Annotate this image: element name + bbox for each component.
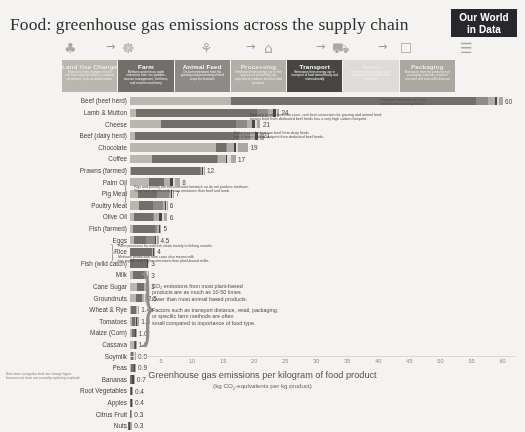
annotation-fish-wild: Farm pressures for wild fish relate main… [118, 244, 213, 248]
bar-segment-animal-feed [236, 120, 247, 128]
bar-row[interactable]: Groundnuts2.5 [0, 293, 525, 305]
supply-chain-segment-animal-feed[interactable]: Animal FeedOn-farm emissions from the gr… [175, 60, 231, 92]
bar-category-label: Cane Sugar [93, 282, 127, 291]
bar-row[interactable]: Cane Sugar3 [0, 282, 525, 294]
x-tick: 30 [313, 358, 319, 364]
bar-segment-animal-feed [153, 201, 163, 209]
bar-segment-farm [231, 97, 476, 105]
annotation-dairy-herd: Dairy co-products mean beef from dairy h… [234, 131, 324, 140]
bar-segment-farm [133, 225, 155, 233]
supply-chain-pictograms: ♣→☸⚘→⌂→⛟→☐☰ [60, 38, 480, 60]
bar-segment-packaging [499, 97, 503, 105]
bar-segment-farm [139, 201, 153, 209]
bar-segment-farm [134, 213, 153, 221]
owid-logo[interactable]: Our World in Data [451, 9, 517, 37]
bar-segment-farm [131, 167, 199, 175]
x-axis-ticks: 51015202530354045505560 [0, 358, 525, 370]
annotation-pig-poultry: Pigs and poultry are non-ruminant livest… [134, 185, 249, 194]
bar-category-label: Chocolate [98, 143, 127, 152]
bar-row[interactable]: Palm Oil8 [0, 177, 525, 189]
supply-chain-legend-band: Land Use ChangeEmissions from changes in… [62, 60, 456, 92]
bar-segment-farm [135, 132, 239, 140]
segment-description: Emissions from changes in land use from … [62, 70, 117, 82]
segment-label: Packaging [400, 63, 455, 70]
bar-category-label: Cheese [105, 120, 127, 129]
bar-row[interactable]: Cassava1.0 [0, 340, 525, 352]
bar-segment-animal-feed [476, 97, 488, 105]
supply-chain-segment-packaging[interactable]: PackagingEmissions from the production o… [400, 60, 456, 92]
bar-row[interactable]: Milk3 [0, 270, 525, 282]
bar-row[interactable]: Coffee17 [0, 154, 525, 166]
bar-row[interactable]: Prawns (farmed)12 [0, 166, 525, 178]
segment-label: Animal Feed [175, 63, 230, 70]
bar-segment-land-use-change [130, 143, 216, 151]
bar-row[interactable]: Fish (farmed)5 [0, 224, 525, 236]
bar-value-label: 5 [164, 224, 168, 233]
animal-feed-icon: ⚘ [200, 38, 213, 58]
bar-segment-land-use-change [130, 97, 231, 105]
segment-label: Processing [231, 63, 286, 70]
bar-segment-packaging [231, 155, 236, 163]
arrow-1-icon: → [106, 40, 115, 53]
x-tick: 35 [344, 358, 350, 364]
bar-value-label: 0.3 [134, 421, 143, 430]
supply-chain-segment-farm[interactable]: FarmMethane and nitrous oxide emissions … [118, 60, 174, 92]
bar-category-label: Tomatoes [99, 317, 127, 326]
bar-value-label: 19 [250, 143, 257, 152]
bar-row[interactable]: Nuts0.3 [0, 421, 525, 432]
bar-segment-processing [488, 97, 495, 105]
bar-segment-packaging [160, 225, 161, 233]
x-tick: 60 [499, 358, 505, 364]
brace-pig-poultry: } [123, 181, 128, 203]
bar-row[interactable]: Chocolate19 [0, 142, 525, 154]
bar-category-label: Coffee [108, 154, 127, 163]
supply-chain-segment-processing[interactable]: ProcessingEmissions from energy use in t… [231, 60, 287, 92]
x-tick: 50 [437, 358, 443, 364]
x-tick: 45 [406, 358, 412, 364]
bar-category-label: Prawns (farmed) [80, 166, 127, 175]
bar-category-label: Groundnuts [94, 294, 127, 303]
arrow-2-icon: → [246, 40, 255, 53]
bar-segment-packaging [132, 399, 133, 407]
bar-row[interactable]: Poultry Meat6 [0, 200, 525, 212]
bar-row[interactable]: Eggs4.5 [0, 235, 525, 247]
bar-value-label: 60 [505, 97, 512, 106]
supply-chain-segment-land-use-change[interactable]: Land Use ChangeEmissions from changes in… [62, 60, 118, 92]
bar-segment-land-use-change [130, 283, 137, 291]
owid-logo-line1: Our World [451, 12, 517, 24]
bar-row[interactable]: Citrus Fruit0.3 [0, 409, 525, 421]
x-tick: 10 [189, 358, 195, 364]
x-tick: 40 [375, 358, 381, 364]
bar-category-label: Beef (dairy herd) [79, 131, 127, 140]
bar-category-label: Maize (Corn) [90, 328, 127, 337]
supply-chain-segment-retail[interactable]: RetailEmissions from energy use in refri… [343, 60, 399, 92]
segment-description: Emissions from the production of packagi… [400, 70, 455, 82]
bar-category-label: Olive Oil [103, 212, 127, 221]
bar-category-label: Cassava [102, 340, 127, 349]
bar-row[interactable]: Fish (wild catch)3 [0, 258, 525, 270]
bar-row[interactable]: Rice4 [0, 247, 525, 259]
bar-row[interactable]: Olive Oil6 [0, 212, 525, 224]
farm-icon: ☸ [122, 38, 135, 58]
bar-segment-farm [136, 109, 257, 117]
x-tick: 5 [159, 358, 162, 364]
bar-category-label: Citrus Fruit [96, 410, 127, 419]
bar-segment-farm [161, 120, 236, 128]
bar-segment-processing [218, 155, 226, 163]
annotation-beef-herd: Methane production from cows, and land c… [250, 113, 381, 122]
annotation-factors: Factors such as transport distance, reta… [152, 307, 278, 326]
bar-row[interactable]: Apples0.4 [0, 398, 525, 410]
supply-chain-segment-transport[interactable]: TransportEmissions from energy use in tr… [287, 60, 343, 92]
bar-row[interactable]: Maize (Corn)1.0 [0, 328, 525, 340]
bar-segment-packaging [204, 167, 205, 175]
segment-label: Transport [287, 63, 342, 70]
processing-icon: ⌂ [264, 38, 273, 58]
bar-row[interactable]: Beef (beef herd)60 [0, 96, 525, 108]
bar-row[interactable]: Pig Meat7 [0, 189, 525, 201]
brace-fish-milk: } [110, 241, 115, 261]
bar-value-label: 17 [238, 155, 245, 164]
bar-segment-packaging [167, 201, 168, 209]
transport-icon: ⛟ [332, 38, 350, 58]
segment-description: Emissions from energy use in the process… [231, 70, 286, 86]
